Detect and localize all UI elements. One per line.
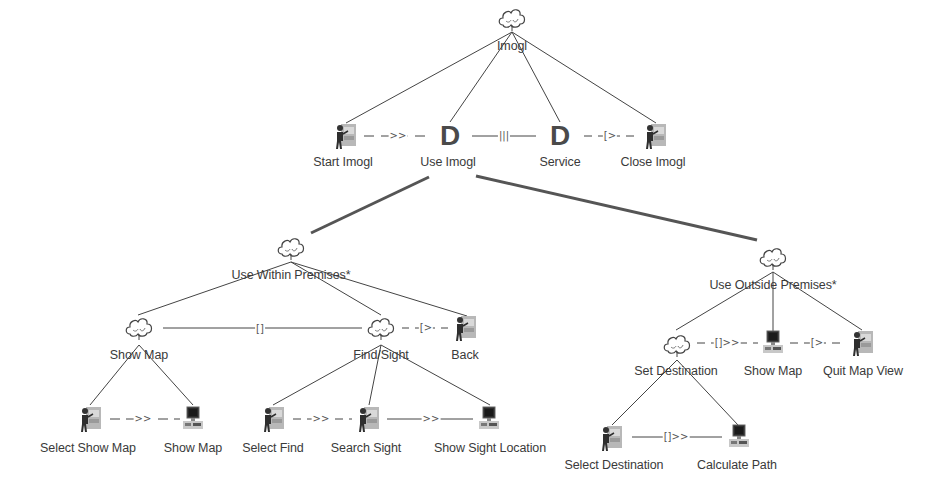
- operator-disabling: [>: [419, 322, 433, 333]
- cloud-icon[interactable]: [497, 5, 527, 31]
- user-task-icon[interactable]: [358, 405, 380, 433]
- operator-enabling: >>: [422, 413, 441, 424]
- user-task-icon[interactable]: [601, 424, 623, 452]
- node-label-search-sight: Search Sight: [331, 441, 401, 455]
- node-label-back: Back: [451, 348, 478, 362]
- node-label-set-destination: Set Destination: [634, 364, 717, 378]
- node-label-start-imogl: Start Imogl: [313, 155, 372, 169]
- node-label-imogl: Imogl: [497, 39, 527, 53]
- node-label-show-map-outside: Show Map: [744, 364, 802, 378]
- computer-task-icon[interactable]: [727, 424, 751, 450]
- node-label-show-map: Show Map: [110, 348, 168, 362]
- user-task-icon[interactable]: [263, 405, 285, 433]
- operator-enabling: >>: [389, 130, 408, 141]
- node-label-show-map-app: Show Map: [164, 441, 222, 455]
- operator-disabling: [>: [810, 337, 824, 348]
- node-label-calculate-path: Calculate Path: [697, 458, 777, 472]
- cloud-icon[interactable]: [758, 244, 788, 270]
- decision-d-icon[interactable]: D: [550, 122, 570, 150]
- cloud-icon[interactable]: [276, 234, 306, 260]
- node-label-service: Service: [540, 155, 581, 169]
- user-task-icon[interactable]: [80, 405, 102, 433]
- node-label-use-outside-premises: Use Outside Premises*: [709, 278, 836, 292]
- computer-task-icon[interactable]: [181, 406, 205, 432]
- node-label-select-destination: Select Destination: [565, 458, 664, 472]
- node-label-close-imogl: Close Imogl: [621, 155, 686, 169]
- decision-d-icon[interactable]: D: [440, 122, 460, 150]
- node-label-use-imogl: Use Imogl: [420, 155, 475, 169]
- node-label-select-show-map: Select Show Map: [40, 441, 136, 455]
- operator-enabling: >>: [312, 413, 331, 424]
- operator-enabling: >>: [134, 413, 153, 424]
- operator-choice: []: [255, 323, 265, 334]
- node-label-quit-map-view: Quit Map View: [823, 364, 903, 378]
- node-label-show-sight-location: Show Sight Location: [434, 441, 546, 455]
- cloud-icon[interactable]: [124, 314, 154, 340]
- operator-disabling: [>: [603, 130, 617, 141]
- operator-choice-enabling: []>>: [714, 337, 741, 348]
- operator-interleaving: |||: [498, 130, 510, 141]
- user-task-icon[interactable]: [645, 122, 667, 150]
- operator-choice-enabling: []>>: [663, 431, 690, 442]
- computer-task-icon[interactable]: [477, 406, 501, 432]
- user-task-icon[interactable]: [852, 329, 874, 357]
- computer-task-icon[interactable]: [761, 330, 785, 356]
- cloud-icon[interactable]: [662, 331, 692, 357]
- cloud-icon[interactable]: [366, 314, 396, 340]
- node-label-find-sight: Find/Sight: [353, 348, 408, 362]
- node-label-use-within-premises: Use Within Premises*: [232, 268, 351, 282]
- node-label-select-find: Select Find: [242, 441, 303, 455]
- user-task-icon[interactable]: [335, 122, 357, 150]
- user-task-icon[interactable]: [455, 314, 477, 342]
